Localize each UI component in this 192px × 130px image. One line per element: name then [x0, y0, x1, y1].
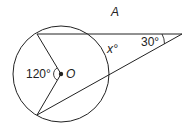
central-angle-label: 120°: [26, 67, 51, 81]
unknown-angle-label: x°: [106, 42, 118, 56]
exterior-angle-arc: [162, 34, 165, 44]
center-point: [59, 72, 63, 76]
figure-label: A: [110, 5, 119, 19]
central-angle-arc: [54, 68, 57, 80]
geometry-diagram: A O 120° 30° x°: [0, 0, 192, 130]
center-label: O: [66, 67, 75, 81]
exterior-angle-label: 30°: [141, 35, 159, 49]
